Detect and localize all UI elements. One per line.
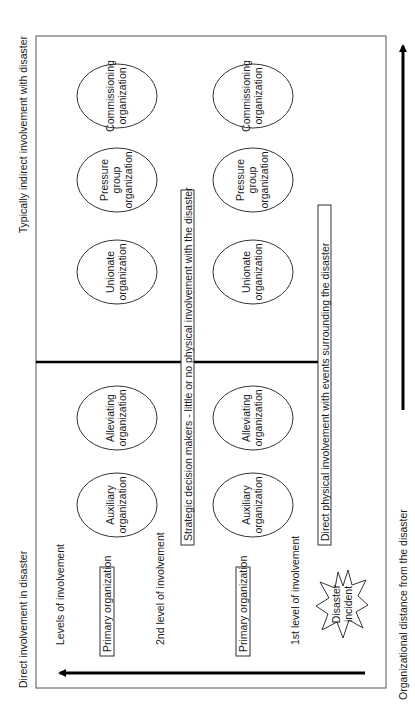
svg-text:Alleviatingorganization: Alleviatingorganization bbox=[104, 389, 128, 446]
row1-pressure-group-org: Pressuregrouporganization bbox=[213, 148, 293, 212]
row2-unionate-org: Unionateorganization bbox=[77, 240, 157, 304]
level-2-label: 2nd level of involvement bbox=[154, 532, 166, 645]
svg-text:Disasterincident: Disasterincident bbox=[330, 584, 354, 623]
diagram-canvas: Direct involvement in disaster Typically… bbox=[0, 0, 415, 711]
distance-label: Organizational distance from the disaste… bbox=[397, 509, 409, 700]
row2-commissioning-org: Commissioningorganization bbox=[77, 60, 157, 132]
row2-auxiliary-org: Auxiliaryorganization bbox=[77, 473, 157, 537]
level-1-primary-label: Primary organization bbox=[237, 556, 249, 652]
row1-commissioning-org: Commissioningorganization bbox=[213, 60, 293, 132]
levels-heading: Levels of involvement bbox=[54, 544, 66, 645]
svg-text:Commissioningorganization: Commissioningorganization bbox=[240, 60, 264, 132]
svg-text:Unionateorganization: Unionateorganization bbox=[240, 243, 264, 300]
disaster-incident-starburst: Disasterincident bbox=[316, 570, 368, 638]
svg-text:Commissioningorganization: Commissioningorganization bbox=[104, 60, 128, 132]
row1-auxiliary-org: Auxiliaryorganization bbox=[213, 473, 293, 537]
row2-pressure-group-org: Pressuregrouporganization bbox=[77, 148, 157, 212]
level-2-primary-label: Primary organization bbox=[101, 556, 113, 652]
direct-banner-label: Direct physical involvement with events … bbox=[319, 242, 331, 541]
svg-text:Unionateorganization: Unionateorganization bbox=[104, 243, 128, 300]
row1-unionate-org: Unionateorganization bbox=[213, 240, 293, 304]
indirect-involvement-label: Typically indirect involvement with disa… bbox=[17, 36, 29, 234]
direct-involvement-label: Direct involvement in disaster bbox=[17, 550, 29, 688]
strategic-banner-label: Strategic decision makers - little or no… bbox=[182, 187, 194, 541]
row1-alleviating-org: Alleviatingorganization bbox=[213, 386, 293, 450]
row2-alleviating-org: Alleviatingorganization bbox=[77, 386, 157, 450]
level-1-label: 1st level of involvement bbox=[289, 536, 301, 645]
svg-text:Alleviatingorganization: Alleviatingorganization bbox=[240, 389, 264, 446]
